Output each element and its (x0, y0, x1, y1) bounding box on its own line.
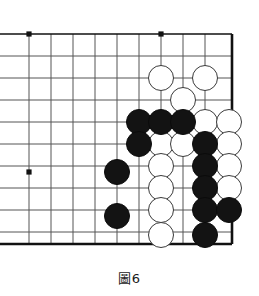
go-board (0, 0, 259, 258)
white-stone (192, 65, 218, 91)
black-stone (170, 109, 196, 135)
go-diagram-figure: 圖6 (0, 0, 259, 296)
black-stone (104, 159, 130, 185)
figure-caption-text: 圖6 (118, 268, 140, 287)
white-stone (148, 222, 174, 248)
figure-caption: 圖6 (0, 258, 259, 296)
black-stone (192, 197, 218, 223)
white-stone (148, 65, 174, 91)
black-stone (126, 131, 152, 157)
black-stone (104, 203, 130, 229)
black-stone (192, 222, 218, 248)
stone-layer (0, 0, 259, 258)
white-stone (148, 197, 174, 223)
black-stone (216, 197, 242, 223)
